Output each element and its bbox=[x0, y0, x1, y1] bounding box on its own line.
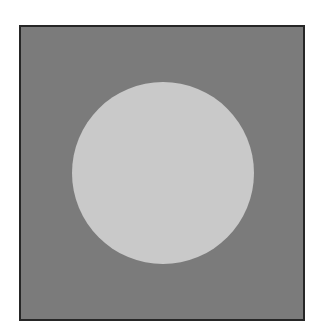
figure-canvas bbox=[0, 0, 322, 333]
light-circle bbox=[72, 82, 254, 264]
